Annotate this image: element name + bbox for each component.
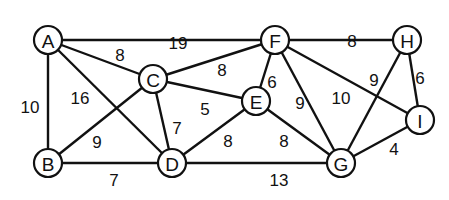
- weights-layer: 198101698576891096488713: [21, 32, 425, 190]
- edge-weight-f-g: 9: [295, 94, 304, 113]
- node-g: G: [327, 149, 355, 177]
- edge-weight-c-f: 8: [217, 61, 226, 80]
- edge-weight-i-g: 4: [389, 140, 398, 159]
- edge-weight-f-h: 8: [347, 32, 356, 51]
- node-label: A: [42, 31, 55, 52]
- node-label: I: [417, 111, 422, 132]
- node-h: H: [393, 26, 421, 54]
- edge-weight-a-c: 8: [115, 46, 124, 65]
- node-a: A: [34, 26, 62, 54]
- node-label: C: [146, 70, 160, 91]
- edge-weight-h-i: 6: [415, 69, 424, 88]
- edge-weight-c-d: 7: [172, 119, 181, 138]
- node-label: D: [165, 154, 179, 175]
- edge-weight-f-i: 10: [332, 89, 351, 108]
- edge-e-d: [172, 101, 256, 163]
- node-c: C: [139, 65, 167, 93]
- node-label: G: [334, 154, 349, 175]
- edge-weight-d-g: 13: [270, 171, 289, 190]
- node-b: B: [34, 149, 62, 177]
- node-label: F: [269, 31, 281, 52]
- edges-layer: [48, 40, 420, 163]
- node-label: B: [42, 154, 55, 175]
- edge-weight-a-f: 19: [169, 34, 188, 53]
- edge-weight-a-d: 16: [71, 89, 90, 108]
- edge-weight-f-e: 6: [267, 73, 276, 92]
- edge-weight-c-e: 5: [200, 100, 209, 119]
- edge-weight-e-d: 8: [223, 132, 232, 151]
- edge-weight-e-g: 8: [279, 132, 288, 151]
- node-f: F: [261, 26, 289, 54]
- edge-weight-c-b: 9: [92, 133, 101, 152]
- edge-weight-b-d: 7: [109, 171, 118, 190]
- node-i: I: [406, 106, 434, 134]
- node-d: D: [158, 149, 186, 177]
- node-e: E: [242, 87, 270, 115]
- node-label: E: [250, 92, 263, 113]
- edge-weight-a-b: 10: [21, 98, 40, 117]
- graph-diagram: 198101698576891096488713 AFHCEIBDG: [0, 0, 449, 200]
- edge-c-e: [153, 79, 256, 101]
- edge-a-c: [48, 40, 153, 79]
- node-label: H: [400, 31, 414, 52]
- edge-a-d: [48, 40, 172, 163]
- edge-weight-h-g: 9: [369, 71, 378, 90]
